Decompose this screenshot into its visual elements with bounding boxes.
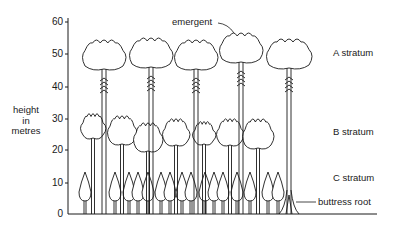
c-stratum-tree	[217, 172, 229, 214]
y-tick-label: 40	[43, 82, 63, 92]
a-stratum-label: A stratum	[333, 47, 373, 58]
y-tick-label: 0	[43, 209, 63, 219]
b-stratum-label: B stratum	[333, 126, 374, 137]
emergent-label: emergent	[172, 16, 212, 27]
y-tick-label: 50	[43, 49, 63, 59]
c-stratum-label: C stratum	[333, 172, 374, 183]
c-stratum-tree	[272, 172, 284, 214]
c-stratum-tree	[79, 172, 91, 214]
c-stratum-tree	[185, 172, 197, 214]
y-tick-label: 20	[43, 145, 63, 155]
c-stratum-tree	[142, 172, 154, 214]
y-axis-label-line: metres	[4, 126, 48, 137]
c-stratum-tree	[231, 172, 243, 214]
y-tick-label: 60	[43, 17, 63, 27]
c-stratum-tree	[244, 172, 256, 214]
y-tick-label: 10	[43, 178, 63, 188]
emergent-leader-line	[218, 23, 234, 33]
y-axis-label: height in metres	[4, 105, 48, 137]
b-stratum-trees	[81, 114, 275, 214]
c-stratum-trees	[79, 172, 284, 214]
buttress-root-label: buttress root	[318, 196, 371, 207]
c-stratum-tree	[109, 172, 121, 214]
y-axis	[65, 18, 68, 214]
y-axis-label-line: height	[4, 105, 48, 116]
